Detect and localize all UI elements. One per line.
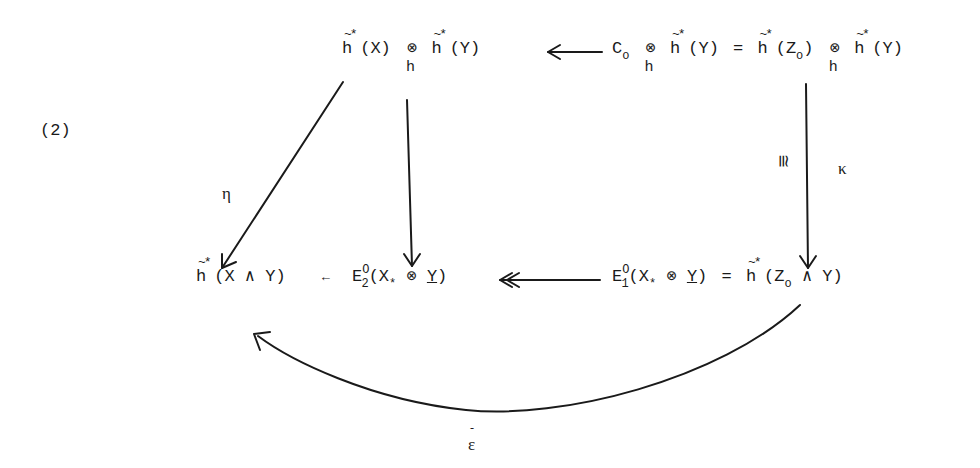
label-iso: ≅ (775, 154, 792, 168)
diagram-arrows (0, 0, 980, 468)
arrow-epsilon-bar-curved (254, 305, 800, 412)
label-kappa: κ (838, 160, 847, 177)
label-epsilon-bar: ε (468, 436, 475, 453)
label-eta: η (222, 185, 231, 202)
label-epsilon-bar-mark: - (470, 422, 474, 434)
arrow-kappa-vertical (800, 84, 816, 268)
arrow-top-horizontal (548, 45, 602, 59)
arrow-eta-diagonal (222, 82, 343, 268)
arrow-bottom-double-head (500, 273, 600, 287)
arrow-middle-vertical (404, 100, 420, 266)
